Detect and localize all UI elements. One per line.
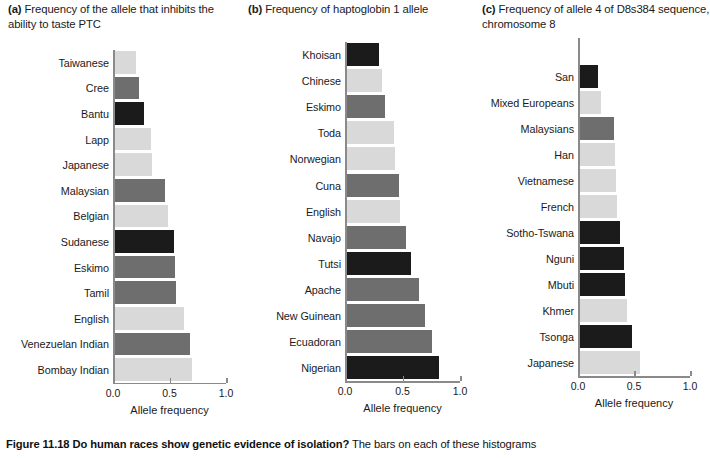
bar <box>347 226 406 249</box>
x-axis-tick-label: 0.0 <box>106 387 121 399</box>
bar-row: English <box>114 306 244 332</box>
bar-row: Tutsi <box>346 251 476 277</box>
x-axis-tick-label: 0.0 <box>338 385 353 397</box>
bar-row: Bantu <box>114 101 244 127</box>
bar-row: Taiwanese <box>114 50 244 76</box>
x-axis-tick <box>460 376 462 381</box>
bar-category-label: New Guinean <box>276 310 341 322</box>
bar-category-label: Khoisan <box>302 49 341 61</box>
bar <box>580 247 624 270</box>
bar-row: Ecuadoran <box>346 329 476 355</box>
bar-row: Bombay Indian <box>114 357 244 383</box>
bar-row: French <box>579 194 709 220</box>
bar-category-label: Toda <box>318 127 341 139</box>
bar-row: English <box>346 199 476 225</box>
bar <box>115 153 152 176</box>
bar <box>115 179 165 202</box>
bar <box>580 221 620 244</box>
bar-category-label: Eskimo <box>306 101 341 113</box>
bar <box>580 169 616 192</box>
bar <box>347 121 394 144</box>
bar-row: Cuna <box>346 173 476 199</box>
bar-category-label: French <box>541 201 574 213</box>
x-axis-line <box>578 376 690 378</box>
bar-row: Venezuelan Indian <box>114 332 244 358</box>
bar-category-label: Ecuadoran <box>289 336 341 348</box>
x-axis-line <box>345 381 460 383</box>
bar-row: Cree <box>114 76 244 102</box>
x-axis-title: Allele frequency <box>130 404 208 416</box>
bar <box>580 65 598 88</box>
bar <box>347 278 419 301</box>
bar-category-label: Taiwanese <box>58 57 109 69</box>
panel-a-title: (a) Frequency of the allele that inhibit… <box>8 2 236 31</box>
bar <box>347 304 425 327</box>
x-axis-title: Allele frequency <box>595 397 673 409</box>
bar-category-label: Japanese <box>63 159 109 171</box>
panel-b-tag: (b) <box>248 3 262 15</box>
bar-row: Mbuti <box>579 272 709 298</box>
bar <box>115 256 175 279</box>
bar <box>580 273 625 296</box>
bar-category-label: Lapp <box>85 134 109 146</box>
bar-row: Vietnamese <box>579 168 709 194</box>
bar-category-label: Venezuelan Indian <box>21 338 109 350</box>
bar <box>580 325 632 348</box>
bar-category-label: Han <box>554 149 574 161</box>
panel-b-title: (b) Frequency of haptoglobin 1 allele <box>248 2 476 17</box>
plot-area-a: TaiwaneseCreeBantuLappJapaneseMalaysianB… <box>2 50 238 413</box>
bar <box>580 143 615 166</box>
bar <box>115 102 144 125</box>
bar <box>115 205 168 228</box>
bar-row: Nigerian <box>346 355 476 381</box>
bar <box>115 51 136 74</box>
bar <box>347 174 399 197</box>
bar <box>580 299 627 322</box>
bar <box>115 333 190 356</box>
x-axis-tick <box>403 376 405 381</box>
bar <box>115 77 139 100</box>
x-axis-tick <box>170 378 172 383</box>
bar-row: Nguni <box>579 246 709 272</box>
x-axis-tick <box>113 378 115 383</box>
figure-caption: Figure 11.18 Do human races show genetic… <box>6 437 706 452</box>
bar-category-label: Vietnamese <box>518 175 574 187</box>
panel-b-title-text: Frequency of haptoglobin 1 allele <box>265 3 428 15</box>
panel-a-tag: (a) <box>8 3 22 15</box>
bar-category-label: Cree <box>86 82 109 94</box>
bar-category-label: Malaysians <box>520 123 574 135</box>
bar-row: San <box>579 64 709 90</box>
bar-row: Belgian <box>114 204 244 230</box>
bar-row: Eskimo <box>346 94 476 120</box>
bar <box>580 117 614 140</box>
bar-row: Navajo <box>346 225 476 251</box>
bar-row: Norwegian <box>346 146 476 172</box>
x-axis-tick-label: 0.5 <box>627 380 642 392</box>
bar-row: Khmer <box>579 298 709 324</box>
panel-c-title: (c) Frequency of allele 4 of D8s384 sequ… <box>482 2 710 31</box>
panel-c-title-text: Frequency of allele 4 of D8s384 sequence… <box>482 3 709 30</box>
panel-a-title-text: Frequency of the allele that inhibits th… <box>8 3 214 30</box>
bar-row: Chinese <box>346 68 476 94</box>
x-axis-tick <box>345 376 347 381</box>
bar-category-label: Apache <box>305 284 341 296</box>
bar-row: Malaysians <box>579 116 709 142</box>
bar <box>115 230 174 253</box>
bar <box>115 307 184 330</box>
bar-category-label: Tsonga <box>539 331 574 343</box>
bar-category-label: Nguni <box>546 253 574 265</box>
bar-row: Lapp <box>114 127 244 153</box>
bar-row: Eskimo <box>114 255 244 281</box>
chart-panel-b: (b) Frequency of haptoglobin 1 allele Kh… <box>242 0 478 424</box>
x-axis-tick <box>690 371 692 376</box>
bar-row: Khoisan <box>346 42 476 68</box>
bar-category-label: Malaysian <box>61 185 109 197</box>
bar-category-label: Bantu <box>81 108 109 120</box>
bar-row: Sudanese <box>114 229 244 255</box>
bar <box>115 281 176 304</box>
chart-panel-a: (a) Frequency of the allele that inhibit… <box>2 0 238 424</box>
bar-category-label: Tamil <box>84 287 109 299</box>
bar <box>347 69 382 92</box>
bar-row: Tsonga <box>579 324 709 350</box>
x-axis-title: Allele frequency <box>363 402 441 414</box>
